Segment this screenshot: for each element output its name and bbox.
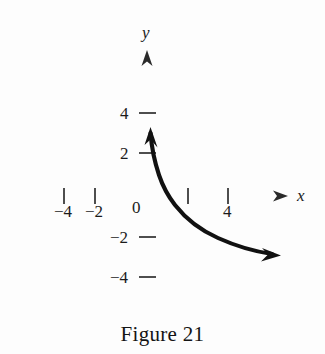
x-tick-label-neg2: −2 — [85, 203, 103, 220]
x-axis-label: x — [297, 187, 305, 204]
y-tick-label-neg2: −2 — [110, 229, 128, 246]
figure-panel: y x 0 −4 −2 4 4 2 −2 −4 Figure 21 — [0, 0, 325, 354]
x-tick-label-neg4: −4 — [54, 203, 72, 220]
y-axis — [139, 50, 156, 310]
x-tick-label-pos4: 4 — [223, 203, 232, 220]
figure-caption: Figure 21 — [0, 322, 325, 347]
y-tick-label-pos4: 4 — [120, 105, 129, 122]
coordinate-plot — [0, 0, 325, 354]
curve-logarithmic — [145, 127, 282, 262]
y-axis-label: y — [142, 24, 150, 41]
y-tick-label-neg4: −4 — [110, 269, 128, 286]
origin-tick-label: 0 — [132, 199, 141, 216]
y-tick-label-pos2: 2 — [120, 145, 129, 162]
